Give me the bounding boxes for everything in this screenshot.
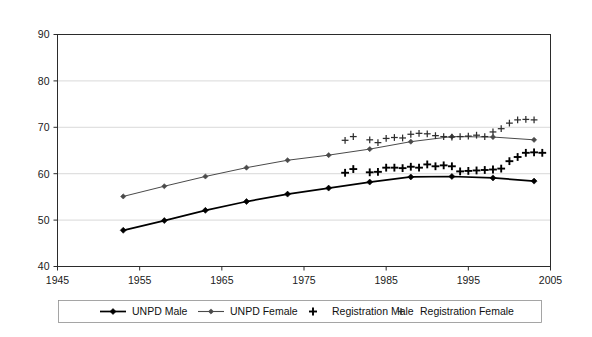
registration-female-point-2: [366, 136, 373, 143]
registration-male-point-3: [374, 168, 382, 176]
registration-male-point-20: [514, 153, 522, 161]
registration-male-point-6: [399, 164, 407, 172]
x-tick-label-1975: 1975: [292, 274, 316, 286]
registration-female-point-0: [342, 137, 349, 144]
unpd-female-point-1: [162, 184, 167, 189]
registration-female-point-18: [498, 125, 505, 132]
registration-male-point-11: [440, 161, 448, 169]
unpd-female-point-2: [203, 174, 208, 179]
legend-label-text: UNPD Female: [230, 305, 298, 317]
unpd-male-point-4: [285, 191, 291, 197]
y-axis-ticks: [54, 35, 58, 267]
registration-female-point-19: [506, 120, 513, 127]
registration-male-point-1: [349, 165, 357, 173]
x-tick-label-1965: 1965: [210, 274, 234, 286]
x-tick-label-1985: 1985: [374, 274, 398, 286]
unpd-male-point-3: [243, 199, 249, 205]
registration-female-point-12: [449, 134, 456, 141]
registration-female-point-13: [457, 133, 464, 140]
x-tick-label-2005: 2005: [539, 274, 563, 286]
registration-female-point-22: [531, 116, 538, 123]
registration-male-point-22: [530, 148, 538, 156]
registration-male-point-21: [522, 149, 530, 157]
registration-female-point-17: [490, 129, 497, 136]
unpd-male-point-5: [326, 185, 332, 191]
registration-female-point-3: [375, 139, 382, 146]
registration-male-point-13: [456, 167, 464, 175]
unpd-male-point-9: [490, 175, 496, 181]
line-chart: 405060708090 194519551965197519851995200…: [0, 0, 592, 337]
registration-male-point-7: [407, 163, 415, 171]
registration-male-point-2: [366, 168, 374, 176]
registration-female-point-11: [440, 133, 447, 140]
registration-female-point-5: [391, 134, 398, 141]
y-tick-label-60: 60: [38, 168, 50, 180]
y-tick-label-70: 70: [38, 121, 50, 133]
legend-label-text: UNPD Male: [132, 305, 188, 317]
registration-male-point-23: [538, 149, 546, 157]
registration-female-point-6: [399, 135, 406, 142]
unpd-female-point-5: [326, 153, 331, 158]
gridlines: [58, 81, 551, 220]
legend-label-text: Registration Female: [420, 305, 514, 317]
registration-female-point-15: [473, 132, 480, 139]
unpd-male-point-2: [202, 207, 208, 213]
unpd-female-point-0: [121, 194, 126, 199]
registration-female-point-4: [383, 135, 390, 142]
unpd-female-point-6: [367, 147, 372, 152]
chart-legend: UNPD MaleUNPD FemaleRegistration MaleReg…: [59, 301, 542, 323]
unpd-male-point-10: [531, 178, 537, 184]
registration-male-point-19: [506, 157, 514, 165]
unpd-male-line: [123, 176, 534, 230]
unpd-male-point-6: [367, 179, 373, 185]
registration-female-point-7: [407, 131, 414, 138]
series-unpd-male: [120, 173, 537, 233]
x-tick-label-1995: 1995: [457, 274, 481, 286]
registration-female-point-1: [350, 133, 357, 140]
registration-male-point-15: [473, 167, 481, 175]
registration-male-point-4: [382, 164, 390, 172]
registration-female-point-21: [522, 116, 529, 123]
chart-container: 405060708090 194519551965197519851995200…: [0, 0, 592, 337]
registration-male-point-9: [423, 161, 431, 169]
registration-male-point-5: [390, 164, 398, 172]
registration-male-point-17: [489, 166, 497, 174]
registration-female-point-9: [424, 130, 431, 137]
unpd-male-point-0: [120, 227, 126, 233]
x-tick-label-1945: 1945: [46, 274, 70, 286]
registration-male-point-8: [415, 164, 423, 172]
y-tick-label-90: 90: [38, 28, 50, 40]
unpd-female-point-4: [285, 158, 290, 163]
x-tick-label-1955: 1955: [128, 274, 152, 286]
unpd-female-point-3: [244, 165, 249, 170]
y-axis-tick-labels: 405060708090: [38, 28, 50, 272]
y-tick-label-50: 50: [38, 214, 50, 226]
registration-male-point-12: [448, 162, 456, 170]
unpd-female-point-10: [531, 137, 536, 142]
series-registration-female: [342, 116, 538, 146]
registration-female-point-8: [416, 130, 423, 137]
y-tick-label-80: 80: [38, 75, 50, 87]
x-axis-ticks: [58, 267, 551, 271]
registration-female-point-14: [465, 133, 472, 140]
x-axis-tick-labels: 1945195519651975198519952005: [46, 274, 563, 286]
registration-male-point-0: [341, 169, 349, 177]
registration-male-point-10: [432, 162, 440, 170]
unpd-male-point-7: [408, 174, 414, 180]
registration-female-point-16: [481, 133, 488, 140]
y-tick-label-40: 40: [38, 260, 50, 272]
registration-male-point-16: [481, 166, 489, 174]
registration-female-point-20: [514, 116, 521, 123]
series-registration-male: [341, 148, 546, 176]
unpd-female-point-7: [408, 139, 413, 144]
plot-area-border: [58, 35, 551, 267]
unpd-male-point-8: [449, 173, 455, 179]
unpd-male-point-1: [161, 218, 167, 224]
registration-male-point-18: [497, 165, 505, 173]
